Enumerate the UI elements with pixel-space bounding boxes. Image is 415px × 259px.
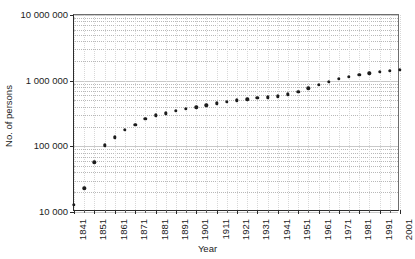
x-tick-label: 1961 xyxy=(322,219,333,240)
y-tick-label: 10 000 000 xyxy=(20,9,68,20)
x-tick-mark-minor xyxy=(247,210,248,213)
y-tick-label: 1 000 000 xyxy=(26,74,68,85)
x-tick-mark xyxy=(257,210,258,214)
x-tick-mark xyxy=(176,210,177,214)
x-tick-label: 1951 xyxy=(301,219,312,240)
y-axis-title: No. of persons xyxy=(3,85,14,147)
x-tick-mark xyxy=(400,210,401,214)
y-tick-label: 100 000 xyxy=(34,140,68,151)
x-tick-mark xyxy=(319,210,320,214)
x-tick-label: 1841 xyxy=(77,219,88,240)
x-tick-mark xyxy=(156,210,157,214)
data-point xyxy=(398,68,401,71)
x-tick-label: 1991 xyxy=(383,219,394,240)
x-tick-mark xyxy=(74,210,75,214)
x-tick-mark xyxy=(217,210,218,214)
x-tick-mark-minor xyxy=(186,210,187,213)
x-tick-label: 1921 xyxy=(240,219,251,240)
x-tick-mark-minor xyxy=(268,210,269,213)
x-tick-mark xyxy=(359,210,360,214)
x-tick-mark xyxy=(278,210,279,214)
x-tick-mark-minor xyxy=(84,210,85,213)
x-tick-mark xyxy=(380,210,381,214)
x-tick-mark xyxy=(237,210,238,214)
x-axis-ticks xyxy=(74,15,398,210)
x-axis-title: Year xyxy=(0,243,415,254)
x-tick-mark xyxy=(298,210,299,214)
x-tick-label: 1971 xyxy=(342,219,353,240)
x-tick-label: 1851 xyxy=(97,219,108,240)
x-tick-label: 1941 xyxy=(281,219,292,240)
x-tick-mark xyxy=(94,210,95,214)
x-tick-mark xyxy=(115,210,116,214)
x-tick-mark-minor xyxy=(288,210,289,213)
x-tick-mark xyxy=(135,210,136,214)
x-tick-mark-minor xyxy=(308,210,309,213)
x-tick-mark-minor xyxy=(227,210,228,213)
x-tick-mark-minor xyxy=(166,210,167,213)
x-tick-mark-minor xyxy=(105,210,106,213)
scatter-chart: No. of persons 10 000100 0001 000 00010 … xyxy=(0,0,415,259)
x-tick-label: 2001 xyxy=(403,219,414,240)
y-tick-label: 10 000 xyxy=(39,206,68,217)
x-tick-label: 1911 xyxy=(220,219,231,239)
x-tick-mark-minor xyxy=(369,210,370,213)
x-tick-mark-minor xyxy=(329,210,330,213)
x-tick-label: 1891 xyxy=(179,219,190,240)
x-tick-label: 1931 xyxy=(260,219,271,240)
x-tick-label: 1881 xyxy=(159,219,170,240)
x-tick-label: 1901 xyxy=(199,219,210,240)
x-tick-mark xyxy=(196,210,197,214)
x-tick-label: 1871 xyxy=(138,219,149,240)
x-tick-mark-minor xyxy=(390,210,391,213)
x-tick-mark-minor xyxy=(125,210,126,213)
x-tick-mark-minor xyxy=(145,210,146,213)
x-tick-label: 1861 xyxy=(118,219,129,240)
x-tick-label: 1981 xyxy=(362,219,373,240)
gridline-vertical xyxy=(400,15,401,210)
plot-area xyxy=(73,14,399,211)
x-tick-mark xyxy=(339,210,340,214)
x-tick-mark-minor xyxy=(206,210,207,213)
x-tick-mark-minor xyxy=(349,210,350,213)
